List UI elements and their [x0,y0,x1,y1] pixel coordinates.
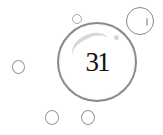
bubble-glint [146,18,148,26]
bubble-illustration: 31 [0,0,163,135]
bubble-bottom-right [81,110,95,125]
bubble-number: 31 [59,24,135,100]
main-bubble: 31 [57,22,137,102]
bubble-small-top [72,14,82,24]
bubble-bottom-left [45,110,59,125]
bubble-left [12,60,25,74]
